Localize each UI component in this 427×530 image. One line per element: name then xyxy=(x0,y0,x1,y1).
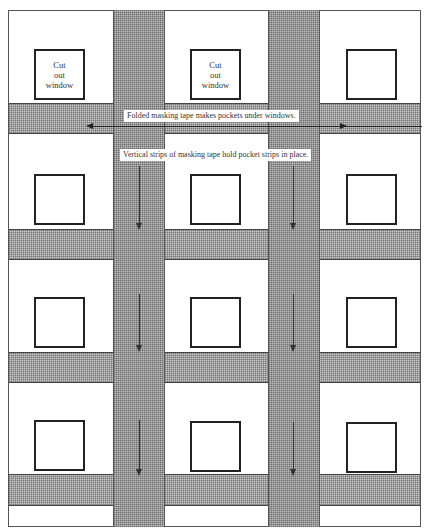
window-label: Cut out window xyxy=(202,60,229,90)
window xyxy=(346,49,397,100)
down-arrow-icon xyxy=(136,223,142,230)
window xyxy=(34,174,85,225)
arrow-left-line xyxy=(92,126,422,127)
cut-out-window: Cut out window xyxy=(190,49,241,100)
down-arrow-line xyxy=(293,166,294,224)
down-arrow-line xyxy=(139,420,140,470)
pocket-strip-4 xyxy=(9,474,420,506)
down-arrow-icon xyxy=(290,345,296,352)
window xyxy=(190,421,241,472)
window xyxy=(346,174,397,225)
window xyxy=(34,297,85,348)
down-arrow-icon xyxy=(136,345,142,352)
arrow-left-icon xyxy=(86,123,93,129)
window xyxy=(190,174,241,225)
window xyxy=(34,420,85,471)
down-arrow-icon xyxy=(290,469,296,476)
arrow-right-icon xyxy=(340,123,347,129)
window-label: Cut out window xyxy=(46,60,73,90)
window xyxy=(190,297,241,348)
window xyxy=(346,422,397,473)
down-arrow-icon xyxy=(136,469,142,476)
cut-out-window: Cut out window xyxy=(34,49,85,100)
down-arrow-icon xyxy=(290,223,296,230)
vertical-strips-annotation: Vertical strips of masking tape hold poc… xyxy=(120,149,311,161)
down-arrow-line xyxy=(139,166,140,224)
folded-tape-annotation: Folded masking tape makes pockets under … xyxy=(124,110,299,122)
down-arrow-line xyxy=(293,294,294,346)
window xyxy=(346,297,397,348)
pocket-strip-3 xyxy=(9,352,420,383)
pocket-strip-2 xyxy=(9,229,420,260)
down-arrow-line xyxy=(293,422,294,470)
vertical-tape-strip-right xyxy=(268,10,320,527)
down-arrow-line xyxy=(139,294,140,346)
